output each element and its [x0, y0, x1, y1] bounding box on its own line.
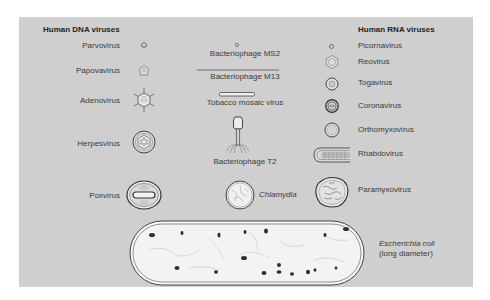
togavirus-label: Togavirus — [358, 78, 392, 87]
tailed-phage-icon — [226, 116, 250, 154]
picornavirus-label: Picornavirus — [358, 41, 402, 50]
herpesvirus-label: Herpesvirus — [40, 139, 120, 148]
papovavirus-label: Papovavirus — [40, 66, 120, 75]
long-filament-icon — [197, 69, 279, 71]
coronavirus-icon — [325, 99, 339, 113]
rna-viruses-heading: Human RNA viruses — [358, 25, 435, 34]
ms2-tiny-sphere-icon — [235, 43, 239, 47]
tiny-icosahedron-icon — [141, 42, 147, 48]
rod-bacterium-icon — [129, 220, 365, 286]
bacteriophage-m13-label: Bacteriophage M13 — [190, 72, 300, 81]
orthomyxovirus-icon — [324, 122, 340, 138]
small-icosahedron-icon — [139, 65, 149, 76]
escherichia-coli-label: Escherichia coli — [379, 239, 435, 248]
rod-icon — [219, 92, 255, 97]
long-diameter-label: (long diameter) — [379, 249, 433, 258]
orthomyxovirus-label: Orthomyxovirus — [358, 125, 414, 134]
paramyxovirus-label: Paramyxovirus — [358, 185, 411, 194]
poxvirus-label: Poxvirus — [40, 191, 120, 200]
rhabdovirus-label: Rhabdovirus — [358, 149, 403, 158]
coronavirus-label: Coronavirus — [358, 101, 401, 110]
rhabdovirus-icon — [313, 147, 351, 163]
reovirus-label: Reovirus — [358, 57, 390, 66]
picornavirus-icon — [329, 44, 334, 49]
tobacco-mosaic-virus-label: Tobacco mosaic virus — [190, 98, 300, 107]
togavirus-icon — [325, 77, 339, 91]
adenovirus-label: Adenovirus — [40, 96, 120, 105]
reovirus-icon — [325, 55, 339, 69]
paramyxovirus-icon — [315, 176, 349, 208]
enveloped-icosahedron-icon — [132, 130, 156, 154]
round-cell-icon — [225, 180, 255, 210]
bacteriophage-t2-label: Bacteriophage T2 — [190, 157, 300, 166]
dna-viruses-heading: Human DNA viruses — [43, 25, 120, 34]
bacteriophage-ms2-label: Bacteriophage MS2 — [190, 49, 300, 58]
chlamydia-label: Chlamydia — [259, 190, 297, 199]
parvovirus-label: Parvovirus — [40, 41, 120, 50]
brick-shaped-virion-icon — [126, 180, 162, 210]
spiked-icosahedron-icon — [133, 88, 155, 112]
